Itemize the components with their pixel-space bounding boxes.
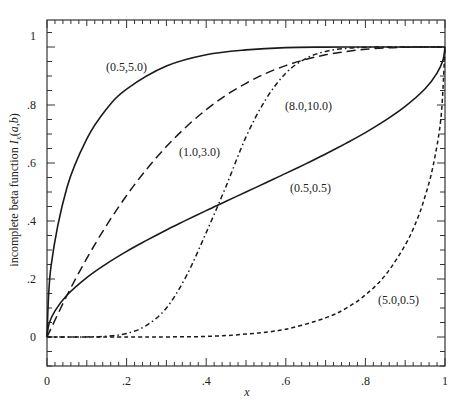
x-tick-label: 1 xyxy=(442,374,448,388)
y-tick-label: .6 xyxy=(27,156,36,170)
curve-label: (0.5,5.0) xyxy=(106,60,147,74)
x-tick-label: .8 xyxy=(361,374,370,388)
curve-label: (5.0,0.5) xyxy=(378,293,419,307)
curve-label: (1.0,3.0) xyxy=(179,145,220,159)
y-axis-label: incomplete beta function Ix(a,b) xyxy=(7,113,23,266)
curve-label: (0.5,0.5) xyxy=(290,181,331,195)
y-tick-label: .4 xyxy=(27,214,36,228)
x-tick-label: .6 xyxy=(281,374,290,388)
y-tick-label: .8 xyxy=(27,98,36,112)
x-tick-label: .4 xyxy=(202,374,211,388)
x-tick-label: 0 xyxy=(44,374,50,388)
x-tick-label: .2 xyxy=(122,374,131,388)
plot-axes: 0.2.4.6.810.2.4.6.81 xyxy=(27,20,448,388)
y-axis-label-text: incomplete beta function xyxy=(7,144,21,266)
beta-function-chart: 0.2.4.6.810.2.4.6.81 (0.5,5.0)(1.0,3.0)(… xyxy=(0,0,458,413)
y-tick-label: 1 xyxy=(30,29,36,43)
y-tick-label: .2 xyxy=(27,272,36,286)
x-axis-label: x xyxy=(243,385,250,399)
curve-label: (8.0,10.0) xyxy=(285,99,332,113)
y-tick-label: 0 xyxy=(30,330,36,344)
